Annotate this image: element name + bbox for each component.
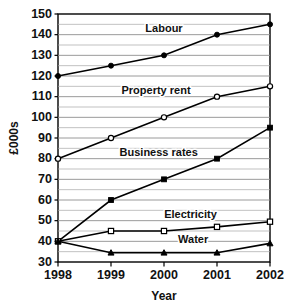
y-tick-label: 150: [31, 7, 52, 21]
y-tick-label: 140: [31, 27, 52, 41]
data-point: [268, 22, 273, 27]
data-point: [215, 32, 220, 37]
y-tick-label: 90: [38, 131, 52, 145]
y-tick-label: 120: [31, 69, 52, 83]
data-point: [214, 94, 219, 99]
y-tick-label: 100: [31, 110, 52, 124]
y-axis-title: £000s: [7, 121, 21, 155]
chart-svg: 30405060708090100110120130140150 1998199…: [0, 0, 287, 307]
x-axis-tick-labels: 19981999200020012002: [44, 268, 284, 282]
data-point: [162, 53, 167, 58]
data-point: [55, 156, 60, 161]
data-point: [215, 156, 220, 161]
y-axis-tick-labels: 30405060708090100110120130140150: [31, 7, 52, 269]
data-point: [56, 74, 61, 79]
line-chart: 30405060708090100110120130140150 1998199…: [0, 0, 287, 307]
y-tick-label: 70: [38, 172, 52, 186]
data-point: [109, 63, 114, 68]
data-point: [109, 198, 114, 203]
x-axis-title: Year: [151, 289, 177, 303]
data-point: [267, 84, 272, 89]
data-point: [161, 115, 166, 120]
y-tick-label: 60: [38, 193, 52, 207]
y-tick-label: 80: [38, 151, 52, 165]
data-point: [161, 228, 166, 233]
series-label: Water: [178, 233, 209, 245]
y-tick-label: 130: [31, 48, 52, 62]
series-label: Labour: [145, 22, 183, 34]
series-label: Electricity: [164, 208, 217, 220]
x-tick-label: 2001: [203, 268, 231, 282]
y-tick-label: 110: [32, 89, 52, 103]
data-point: [108, 228, 113, 233]
data-point: [268, 125, 273, 130]
data-point: [267, 219, 272, 224]
series-label: Business rates: [120, 146, 198, 158]
x-tick-label: 1999: [97, 268, 125, 282]
y-tick-label: 40: [38, 234, 52, 248]
x-tick-label: 2000: [150, 268, 178, 282]
data-point: [214, 224, 219, 229]
x-tick-label: 2002: [256, 268, 284, 282]
series-label: Property rent: [122, 84, 191, 96]
y-tick-label: 50: [38, 213, 52, 227]
data-point: [162, 177, 167, 182]
y-tick-label: 30: [38, 255, 52, 269]
x-tick-label: 1998: [44, 268, 72, 282]
data-point: [108, 135, 113, 140]
